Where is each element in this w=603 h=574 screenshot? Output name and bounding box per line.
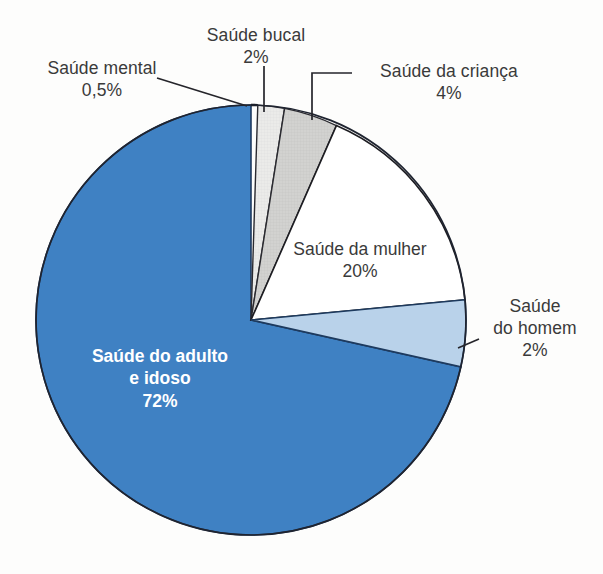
leader-line-saude-crianca <box>312 73 352 120</box>
label-saude-homem: Saúde do homem 2% <box>472 295 598 361</box>
label-saude-mulher: Saúde da mulher 20% <box>268 238 452 283</box>
label-saude-homem-value: 2% <box>472 339 598 361</box>
pie-chart-figure: Saúde mental 0,5% Saúde bucal 2% Saúde d… <box>0 0 603 574</box>
label-saude-adulto-idoso-value: 72% <box>62 390 258 412</box>
label-saude-mulher-name: Saúde da mulher <box>293 239 426 259</box>
label-saude-bucal-value: 2% <box>186 46 326 68</box>
label-saude-adulto-idoso-line1: Saúde do adulto <box>92 346 228 366</box>
label-saude-homem-name-line2: do homem <box>472 317 598 339</box>
label-saude-bucal: Saúde bucal 2% <box>186 24 326 68</box>
label-saude-crianca-name: Saúde da criança <box>380 61 518 81</box>
label-saude-adulto-idoso: Saúde do adulto e idoso 72% <box>62 345 258 412</box>
label-saude-bucal-name: Saúde bucal <box>207 25 305 45</box>
label-saude-mental-value: 0,5% <box>22 79 182 101</box>
label-saude-adulto-idoso-line2: e idoso <box>62 367 258 389</box>
label-saude-homem-name-line1: Saúde <box>509 296 560 316</box>
label-saude-crianca: Saúde da criança 4% <box>358 60 540 104</box>
label-saude-mental-name: Saúde mental <box>47 58 156 78</box>
label-saude-mulher-value: 20% <box>268 260 452 282</box>
label-saude-mental: Saúde mental 0,5% <box>22 57 182 101</box>
label-saude-crianca-value: 4% <box>358 82 540 104</box>
